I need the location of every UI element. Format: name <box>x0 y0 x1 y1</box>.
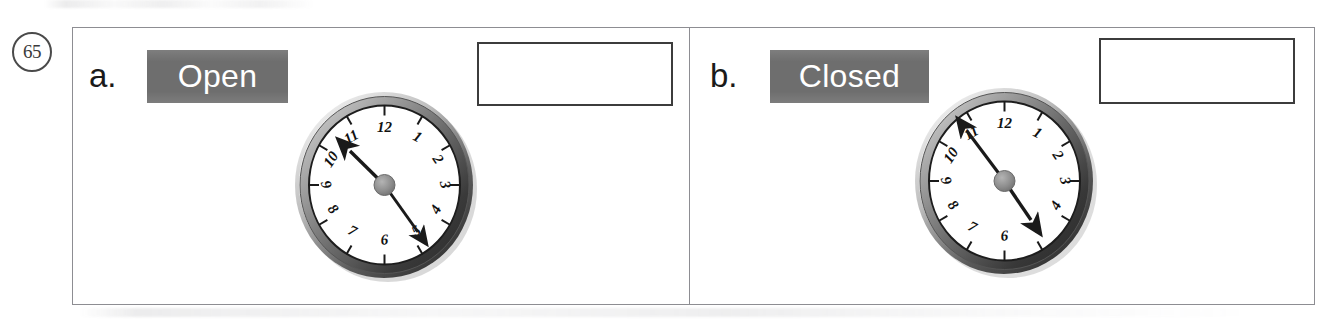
clock-face-b-svg: 12 1 2 3 4 5 6 7 8 9 10 11 <box>905 81 1103 281</box>
exercise-item-a: a. Open <box>73 28 690 304</box>
problem-number-text: 65 <box>23 41 41 63</box>
svg-text:12: 12 <box>377 119 393 135</box>
keyword-badge-a: Open <box>147 50 288 103</box>
analog-clock-a: 12 1 2 3 4 5 6 7 8 9 10 11 <box>285 85 483 285</box>
scan-artifact-bottom <box>78 308 1258 317</box>
answer-box-b[interactable] <box>1099 38 1295 104</box>
clock-face-a-svg: 12 1 2 3 4 5 6 7 8 9 10 11 <box>285 85 483 285</box>
svg-text:12: 12 <box>997 115 1013 131</box>
keyword-text-b: Closed <box>799 58 900 95</box>
answer-box-a[interactable] <box>477 42 673 106</box>
scan-artifact-top <box>44 0 314 8</box>
clock-hub-b <box>994 171 1015 192</box>
item-letter-a: a. <box>89 59 117 92</box>
keyword-text-a: Open <box>178 58 257 95</box>
worksheet-page: 65 a. Open <box>0 0 1334 324</box>
item-letter-b: b. <box>710 59 738 92</box>
clock-hub-a <box>374 175 395 196</box>
analog-clock-b: 12 1 2 3 4 5 6 7 8 9 10 11 <box>905 81 1103 281</box>
problem-number-badge: 65 <box>12 32 52 72</box>
exercise-frame: a. Open <box>72 27 1315 305</box>
exercise-item-b: b. Closed <box>690 28 1313 304</box>
